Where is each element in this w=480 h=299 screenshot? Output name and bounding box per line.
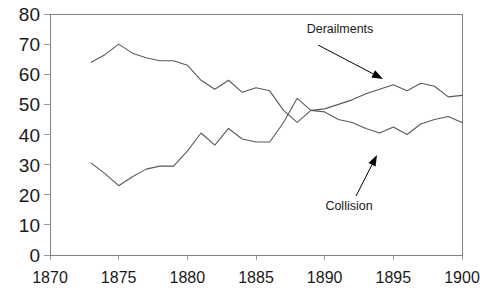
y-tick-label-40: 40 (19, 125, 40, 146)
x-tick-label-1900: 1900 (444, 269, 480, 286)
y-tick-label-20: 20 (19, 185, 40, 206)
y-tick-label-10: 10 (19, 215, 40, 236)
x-tick-label-1875: 1875 (101, 269, 137, 286)
x-tick-label-1870: 1870 (32, 269, 68, 286)
collision-annotation-text: Collision (325, 199, 372, 213)
y-tick-label-60: 60 (19, 64, 40, 85)
x-tick-label-1885: 1885 (238, 269, 274, 286)
y-tick-label-80: 80 (19, 4, 40, 25)
railway-accidents-line-chart: 01020304050607080 1870187518801885189018… (0, 0, 480, 299)
x-tick-label-1890: 1890 (307, 269, 343, 286)
y-tick-label-0: 0 (29, 245, 40, 266)
derailments-annotation-text: Derailments (307, 22, 374, 36)
y-tick-label-70: 70 (19, 34, 40, 55)
chart-canvas: 01020304050607080 1870187518801885189018… (0, 0, 480, 299)
y-tick-label-30: 30 (19, 155, 40, 176)
chart-background (0, 0, 480, 299)
x-tick-label-1880: 1880 (170, 269, 206, 286)
y-tick-label-50: 50 (19, 94, 40, 115)
y-tick-labels: 01020304050607080 (19, 4, 40, 266)
x-tick-label-1895: 1895 (376, 269, 412, 286)
